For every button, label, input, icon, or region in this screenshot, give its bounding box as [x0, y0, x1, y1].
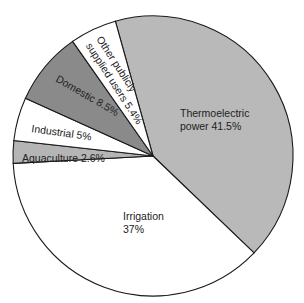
slice-label-thermoelectric-power: Thermoelectricpower 41.5%: [180, 107, 249, 132]
slice-label-aquaculture: Aquaculture 2.6%: [22, 152, 105, 164]
pie-chart: Thermoelectricpower 41.5%Irrigation37%Aq…: [0, 0, 304, 303]
